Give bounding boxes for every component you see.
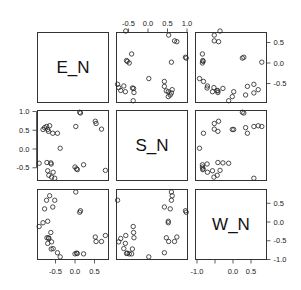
- data-point: [210, 169, 214, 173]
- data-point: [81, 163, 85, 167]
- data-point: [252, 124, 256, 128]
- data-point: [147, 76, 151, 80]
- data-point: [242, 111, 246, 115]
- data-point: [166, 239, 170, 243]
- data-point: [212, 121, 216, 125]
- data-point: [131, 224, 135, 228]
- data-point: [243, 125, 247, 129]
- data-point: [226, 161, 230, 165]
- data-point: [212, 85, 216, 89]
- tick-label: 0.5: [19, 126, 29, 135]
- data-point: [117, 240, 121, 244]
- tick-label: 0.5: [162, 19, 172, 28]
- variable-label: S_N: [135, 136, 168, 155]
- data-point: [51, 205, 55, 209]
- data-point: [200, 52, 204, 56]
- data-point: [216, 39, 220, 43]
- data-point: [243, 93, 247, 97]
- data-point: [252, 91, 256, 95]
- data-point: [162, 205, 166, 209]
- data-point: [123, 90, 127, 94]
- tick-label: -0.5: [274, 236, 287, 245]
- data-point: [232, 90, 236, 94]
- data-point: [49, 240, 53, 244]
- variable-label: W_N: [212, 215, 250, 234]
- data-point: [132, 236, 136, 240]
- data-point: [129, 52, 133, 56]
- data-point: [44, 198, 48, 202]
- data-point: [122, 84, 126, 88]
- data-point: [51, 170, 55, 174]
- data-point: [169, 60, 173, 64]
- data-point: [103, 233, 107, 237]
- data-point: [256, 87, 260, 91]
- tick-label: 1.0: [182, 19, 192, 28]
- data-point: [51, 131, 55, 135]
- data-point: [201, 79, 205, 83]
- data-point: [49, 230, 53, 234]
- data-point: [216, 119, 220, 123]
- tick-label: 1.0: [19, 107, 29, 116]
- data-point: [260, 60, 264, 64]
- data-point: [201, 131, 205, 135]
- data-point: [131, 230, 135, 234]
- tick-label: -0.5: [49, 267, 62, 276]
- tick-label: 0.0: [274, 218, 284, 227]
- data-point: [81, 252, 85, 256]
- data-point: [166, 33, 170, 37]
- tick-label: -0.5: [17, 163, 30, 172]
- data-point: [58, 255, 62, 259]
- data-point: [162, 251, 166, 255]
- data-point: [99, 239, 103, 243]
- data-point: [74, 124, 78, 128]
- pairs-plot: -0.50.00.51.00.50.0-0.51.00.50.0-0.50.50…: [0, 0, 301, 290]
- data-point: [205, 170, 209, 174]
- data-point: [221, 161, 225, 165]
- data-point: [46, 219, 50, 223]
- panel-W_N-vs-S_N: [117, 190, 188, 260]
- data-point: [46, 169, 50, 173]
- data-point: [245, 131, 249, 135]
- tick-label: -0.5: [274, 79, 287, 88]
- data-point: [242, 55, 246, 59]
- data-point: [147, 255, 151, 259]
- tick-label: 0.5: [246, 267, 256, 276]
- diagonal-labels: E_NS_NW_N: [56, 58, 249, 234]
- data-point: [245, 84, 249, 88]
- tick-label: 0.0: [274, 59, 284, 68]
- data-point: [58, 146, 62, 150]
- data-point: [103, 168, 107, 172]
- data-point: [169, 198, 173, 202]
- data-point: [197, 76, 201, 80]
- tick-label: 0.0: [19, 145, 29, 154]
- panel-E_N-vs-S_N: [117, 33, 188, 103]
- tick-label: 0.5: [274, 38, 284, 47]
- data-point: [175, 235, 179, 239]
- data-point: [216, 160, 220, 164]
- data-point: [123, 241, 127, 245]
- tick-label: 0.5: [274, 199, 284, 208]
- data-point: [252, 176, 256, 180]
- tick-label: -1.0: [191, 267, 204, 276]
- data-point: [162, 79, 166, 83]
- data-point: [47, 194, 51, 198]
- tick-label: -1.0: [274, 255, 287, 264]
- data-point: [252, 82, 256, 86]
- data-point: [55, 131, 59, 135]
- data-point: [122, 246, 126, 250]
- data-point: [162, 84, 166, 88]
- data-point: [230, 94, 234, 98]
- data-point: [183, 209, 187, 213]
- variable-label: E_N: [56, 58, 89, 77]
- data-point: [172, 239, 176, 243]
- data-point: [78, 209, 82, 213]
- data-point: [74, 190, 78, 194]
- data-point: [197, 146, 201, 150]
- data-point: [212, 33, 216, 37]
- data-point: [212, 39, 216, 43]
- data-point: [221, 86, 225, 90]
- data-point: [93, 235, 97, 239]
- tick-label: 0.5: [89, 267, 99, 276]
- data-point: [53, 198, 57, 202]
- data-point: [99, 127, 103, 131]
